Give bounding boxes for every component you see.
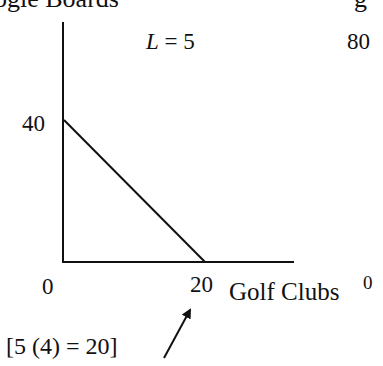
x-origin-label: 0	[42, 275, 54, 298]
ppf-line	[64, 120, 205, 262]
x-axis-label: Golf Clubs	[229, 279, 339, 304]
l-equals: = 5	[159, 29, 195, 54]
x-tick-20: 20	[190, 273, 213, 296]
annotation-label: [5 (4) = 20]	[6, 334, 118, 358]
right-top-value: 80	[347, 30, 370, 53]
right-bottom-value: 0	[363, 273, 373, 292]
annotation-arrow	[164, 310, 190, 358]
l-symbol: L	[146, 29, 159, 54]
y-tick-40: 40	[22, 112, 45, 135]
l-value-label: L = 5	[146, 30, 195, 53]
chart-canvas	[0, 0, 383, 366]
